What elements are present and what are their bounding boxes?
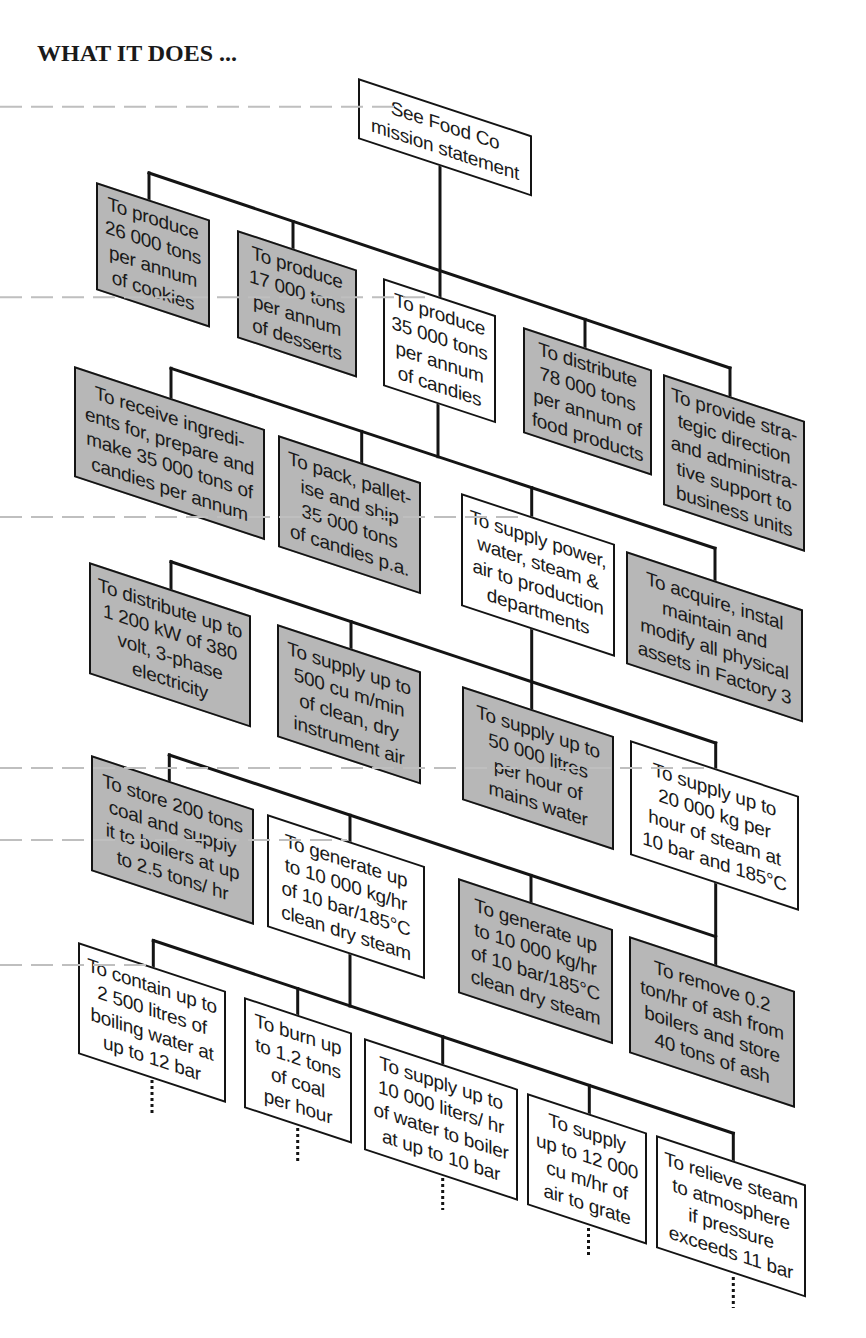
node-text: To burn up to 1.2 tons of coal per hour — [255, 1008, 342, 1133]
